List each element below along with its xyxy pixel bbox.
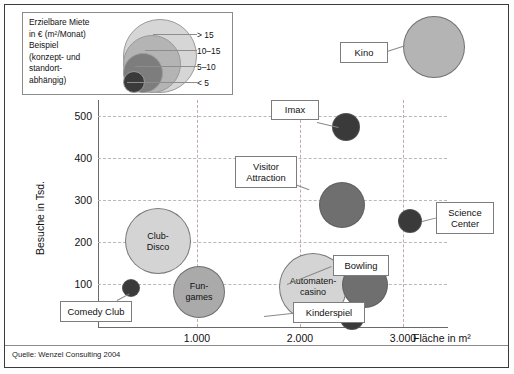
legend-key-lt5: < 5 [197,78,209,88]
callout-imax[interactable]: Imax [271,100,319,120]
bubble-club-disco[interactable] [125,208,191,274]
y-tick-500: 500 [52,110,92,122]
legend-title-line: (konzept- und [29,52,121,64]
x-tick-2000: 2.000 [273,332,327,344]
bubble-science-center[interactable] [398,209,422,233]
x-axis-line [98,327,448,328]
y-tick-100: 100 [52,278,92,290]
y-axis-title: Besuche in Tsd. [34,181,46,255]
legend-title: Erzielbare Miete in € (m²/Monat) Beispie… [29,17,121,87]
bubble-fun-games[interactable] [173,266,225,318]
legend-title-line: in € (m²/Monat) [29,29,121,41]
legend-leader-line [127,82,197,83]
legend-title-line: Beispiel [29,40,121,52]
legend: Erzielbare Miete in € (m²/Monat) Beispie… [22,12,233,95]
legend-leader-line [145,50,197,51]
chart-figure: Erzielbare Miete in € (m²/Monat) Beispie… [0,0,514,374]
legend-key-5-10: 5–10 [197,62,216,72]
x-axis-title: Fläche in m² [413,332,471,344]
legend-title-line: standort- [29,63,121,75]
callout-comedy-club[interactable]: Comedy Club [60,301,132,322]
x-tick-1000: 1.000 [170,332,224,344]
plot-area: Club- Disco Fun- games Automaten- casino [98,100,447,327]
source-divider [5,345,508,346]
source-note: Quelle: Wenzel Consulting 2004 [12,350,120,359]
bubble-visitor-attraction[interactable] [319,182,365,228]
y-tick-300: 300 [52,194,92,206]
gridline-y-100 [98,284,447,285]
callout-science-center[interactable]: Science Center [436,202,494,234]
callout-visitor-attraction[interactable]: Visitor Attraction [235,156,297,188]
legend-leader-line [135,66,197,67]
bubble-kino[interactable] [403,16,465,78]
legend-bubble-scale [119,15,195,95]
legend-keys: > 15 10–15 5–10 < 5 [195,15,235,95]
y-tick-400: 400 [52,152,92,164]
legend-title-line: abhängig) [29,75,121,87]
legend-key-gt15: > 15 [197,30,214,40]
gridline-y-300 [98,200,447,201]
legend-title-line: Erzielbare Miete [29,17,121,29]
callout-kinderspiel[interactable]: Kinderspiel [293,302,365,323]
bubble-comedy-club[interactable] [122,279,140,297]
y-tick-200: 200 [52,236,92,248]
callout-kino[interactable]: Kino [340,42,388,63]
callout-bowling[interactable]: Bowling [333,255,389,276]
legend-leader-line [153,34,197,35]
legend-key-10-15: 10–15 [197,46,220,56]
